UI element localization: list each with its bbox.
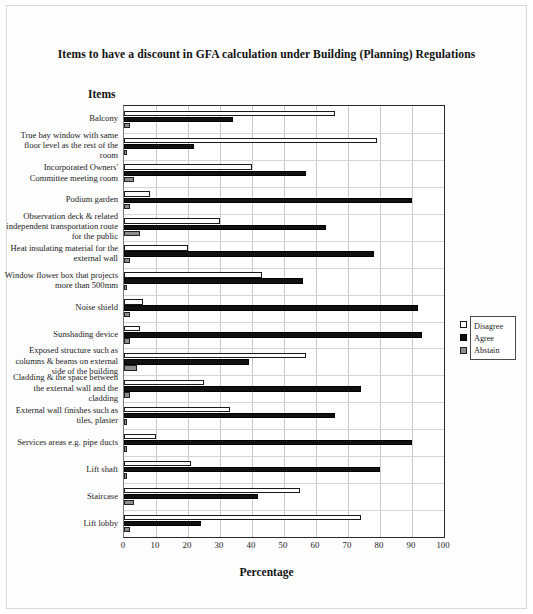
row-separator	[124, 187, 444, 188]
bar-abstain	[124, 473, 127, 478]
x-tick-label: 10	[140, 540, 170, 550]
category-label: Lift shaft	[4, 464, 122, 474]
bar-abstain	[124, 338, 130, 343]
plot-area	[123, 105, 445, 538]
row-separator	[124, 375, 444, 376]
bar-disagree	[124, 353, 306, 358]
bar-agree	[124, 413, 335, 418]
bar-disagree	[124, 299, 143, 304]
bar-abstain	[124, 446, 127, 451]
bar-agree	[124, 144, 194, 149]
document-page: Items to have a discount in GFA calculat…	[0, 0, 533, 614]
bar-abstain	[124, 500, 134, 505]
x-axis-title: Percentage	[0, 566, 533, 578]
bar-disagree	[124, 245, 188, 250]
category-label: Podium garden	[4, 194, 122, 204]
category-label: Services areas e.g. pipe ducts	[4, 437, 122, 447]
bar-agree	[124, 278, 303, 283]
bar-group	[124, 299, 444, 317]
row-separator	[124, 322, 444, 323]
bar-disagree	[124, 407, 230, 412]
x-tick-label: 30	[204, 540, 234, 550]
category-label: Heat insulating material for the externa…	[4, 243, 122, 263]
row-separator	[124, 483, 444, 484]
bar-group	[124, 434, 444, 452]
bar-disagree	[124, 272, 262, 277]
bar-agree	[124, 359, 249, 364]
bar-abstain	[124, 392, 130, 397]
bar-group	[124, 461, 444, 479]
bar-abstain	[124, 312, 130, 317]
bar-agree	[124, 467, 380, 472]
x-tick-label: 100	[428, 540, 458, 550]
category-label-column: BalconyTrue bay window with same floor l…	[0, 105, 122, 536]
bar-abstain	[124, 231, 140, 236]
row-separator	[124, 429, 444, 430]
x-tick-label: 60	[300, 540, 330, 550]
bar-disagree	[124, 218, 220, 223]
row-separator	[124, 402, 444, 403]
bar-abstain	[124, 419, 127, 424]
category-label: Observation deck & related independent t…	[4, 211, 122, 242]
bar-agree	[124, 440, 412, 445]
x-tick-label: 90	[396, 540, 426, 550]
bar-group	[124, 407, 444, 425]
row-separator	[124, 348, 444, 349]
chart-title: Items to have a discount in GFA calculat…	[0, 48, 533, 61]
bar-agree	[124, 494, 258, 499]
bar-agree	[124, 117, 233, 122]
bar-agree	[124, 521, 201, 526]
bar-agree	[124, 305, 418, 310]
legend-label-abstain: Abstain	[474, 346, 499, 355]
bar-disagree	[124, 138, 377, 143]
bar-disagree	[124, 434, 156, 439]
bar-abstain	[124, 150, 127, 155]
legend-label-disagree: Disagree	[474, 322, 503, 331]
bar-group	[124, 138, 444, 156]
bar-disagree	[124, 461, 191, 466]
category-label: Cladding & the space between the externa…	[4, 372, 122, 403]
legend-item-agree: Agree	[474, 332, 511, 344]
bar-agree	[124, 225, 326, 230]
bar-disagree	[124, 111, 335, 116]
bar-group	[124, 164, 444, 182]
x-tick-label: 0	[108, 540, 138, 550]
bar-abstain	[124, 285, 127, 290]
bar-agree	[124, 171, 306, 176]
row-separator	[124, 456, 444, 457]
bar-agree	[124, 332, 422, 337]
x-tick-label: 70	[332, 540, 362, 550]
bar-group	[124, 515, 444, 533]
bar-abstain	[124, 365, 137, 370]
bar-abstain	[124, 258, 130, 263]
bar-agree	[124, 386, 361, 391]
category-label: Window flower box that projects more tha…	[4, 270, 122, 290]
category-label: Sunshading device	[4, 329, 122, 339]
bar-group	[124, 380, 444, 398]
category-label: Lift lobby	[4, 518, 122, 528]
row-separator	[124, 214, 444, 215]
x-tick-label: 40	[236, 540, 266, 550]
legend-item-disagree: Disagree	[474, 320, 511, 332]
row-separator	[124, 510, 444, 511]
category-label: Noise shield	[4, 302, 122, 312]
row-separator	[124, 133, 444, 134]
legend-item-abstain: Abstain	[474, 344, 511, 356]
bar-disagree	[124, 191, 150, 196]
bar-group	[124, 111, 444, 129]
bar-agree	[124, 198, 412, 203]
legend: Disagree Agree Abstain	[470, 316, 516, 360]
bar-disagree	[124, 488, 300, 493]
bar-disagree	[124, 515, 361, 520]
bar-group	[124, 326, 444, 344]
x-tick-label: 50	[268, 540, 298, 550]
category-label: Incorporated Owners' Committee meeting r…	[4, 162, 122, 182]
row-separator	[124, 295, 444, 296]
category-label: Staircase	[4, 491, 122, 501]
bar-abstain	[124, 177, 134, 182]
bar-group	[124, 191, 444, 209]
bar-agree	[124, 251, 374, 256]
row-separator	[124, 241, 444, 242]
category-label: True bay window with same floor level as…	[4, 130, 122, 161]
bar-abstain	[124, 123, 130, 128]
